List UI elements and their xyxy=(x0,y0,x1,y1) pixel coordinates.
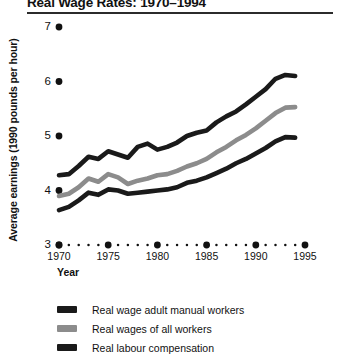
y-axis-tick-label: 7 xyxy=(37,20,51,32)
legend-swatch-icon xyxy=(57,344,77,351)
x-axis-tick-dot xyxy=(154,242,161,249)
x-axis-minor-dot xyxy=(136,244,139,247)
chart-legend: Real wage adult manual workersReal wages… xyxy=(57,300,332,357)
x-axis-tick-dot xyxy=(252,242,259,249)
legend-item[interactable]: Real wages of all workers xyxy=(57,319,332,338)
x-axis-title: Year xyxy=(57,266,79,278)
x-axis-minor-dot xyxy=(264,244,267,247)
x-axis-minor-dot xyxy=(97,244,100,247)
x-axis-tick-label: 1975 xyxy=(86,250,130,262)
legend-label: Real labour compensation xyxy=(92,342,214,354)
x-axis-minor-dot xyxy=(127,244,130,247)
x-axis-tick-dot xyxy=(302,242,309,249)
y-axis-tick-label: 6 xyxy=(37,75,51,87)
x-axis-tick-label: 1985 xyxy=(185,250,229,262)
y-axis-tick-dot xyxy=(56,187,63,194)
x-axis-minor-dot xyxy=(117,244,120,247)
y-axis-tick-label: 5 xyxy=(37,129,51,141)
x-axis-tick-label: 1980 xyxy=(135,250,179,262)
chart-figure: Real Wage Rates: 1970–1994 Average earni… xyxy=(0,0,338,364)
x-axis-tick-dot xyxy=(56,242,63,249)
x-axis-minor-dot xyxy=(274,244,277,247)
x-axis-minor-dot xyxy=(166,244,169,247)
x-axis-tick-label: 1995 xyxy=(283,250,327,262)
y-axis-tick-dot xyxy=(56,133,63,140)
legend-label: Real wage adult manual workers xyxy=(92,304,244,316)
x-axis-tick-dot xyxy=(203,242,210,249)
x-axis-minor-dot xyxy=(176,244,179,247)
x-axis-minor-dot xyxy=(215,244,218,247)
x-axis-minor-dot xyxy=(146,244,149,247)
x-axis-minor-dot xyxy=(77,244,80,247)
x-axis-minor-dot xyxy=(68,244,71,247)
x-axis-tick-label: 1990 xyxy=(234,250,278,262)
x-axis-tick-label: 1970 xyxy=(37,250,81,262)
x-axis-tick-dot xyxy=(105,242,112,249)
x-axis-minor-dot xyxy=(284,244,287,247)
legend-swatch-icon xyxy=(57,325,77,332)
y-axis-tick-label: 3 xyxy=(37,238,51,250)
x-axis-minor-dot xyxy=(294,244,297,247)
legend-item[interactable]: Real wage adult manual workers xyxy=(57,300,332,319)
x-axis-minor-dot xyxy=(87,244,90,247)
x-axis-minor-dot xyxy=(235,244,238,247)
x-axis-minor-dot xyxy=(196,244,199,247)
y-axis-tick-dot xyxy=(56,78,63,85)
legend-item[interactable]: Real labour compensation xyxy=(57,338,332,357)
y-axis-tick-label: 4 xyxy=(37,184,51,196)
x-axis-minor-dot xyxy=(245,244,248,247)
x-axis-minor-dot xyxy=(225,244,228,247)
y-axis-tick-dot xyxy=(56,24,63,31)
legend-swatch-icon xyxy=(57,306,77,313)
x-axis-minor-dot xyxy=(186,244,189,247)
series-line-2 xyxy=(59,137,295,210)
legend-label: Real wages of all workers xyxy=(92,323,212,335)
